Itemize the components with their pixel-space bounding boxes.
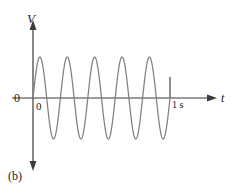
v-axis-zero-label: 0 xyxy=(14,92,20,104)
t-axis-origin-label: 0 xyxy=(36,101,42,112)
t-axis-label: t xyxy=(221,92,224,104)
t-axis-right-arrow-icon xyxy=(207,95,217,102)
figure-panel-b: V t 0 0 1 s (b) xyxy=(0,0,237,193)
v-axis-down-arrow-icon xyxy=(30,161,37,171)
panel-label: (b) xyxy=(8,170,22,182)
v-axis-label: V xyxy=(27,12,35,25)
waveform-plot xyxy=(0,0,237,193)
t-axis-one-second-label: 1 s xyxy=(172,100,183,110)
